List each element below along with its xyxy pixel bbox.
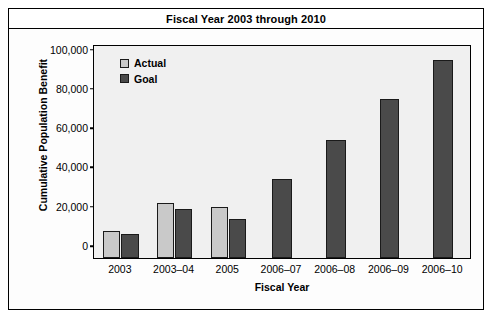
legend-item-goal: Goal	[120, 74, 166, 85]
y-axis-tick-label: 60,000	[26, 122, 88, 134]
chart-title: Fiscal Year 2003 through 2010	[166, 13, 326, 25]
x-axis-tick-label: 2005	[216, 263, 239, 275]
x-axis-tick-label: 2003–04	[153, 263, 194, 275]
bar-goal-2003	[121, 234, 138, 258]
chart-legend: Actual Goal	[120, 58, 166, 89]
bar-goal-2005	[229, 219, 246, 258]
legend-swatch-goal-icon	[120, 74, 129, 83]
legend-swatch-actual-icon	[120, 59, 129, 68]
bar-goal-2006–07	[272, 179, 292, 258]
y-axis-tick-label: 40,000	[26, 161, 88, 173]
chart-figure: Fiscal Year 2003 through 2010 Cumulative…	[8, 8, 484, 310]
y-axis-tick-label: 100,000	[26, 44, 88, 56]
legend-item-actual: Actual	[120, 58, 166, 69]
legend-label-goal: Goal	[134, 74, 157, 85]
legend-label-actual: Actual	[134, 58, 166, 69]
bar-actual-2005	[211, 207, 228, 258]
bar-goal-2006–10	[433, 60, 453, 258]
y-axis-tick-label: 20,000	[26, 201, 88, 213]
bar-goal-2006–08	[326, 140, 346, 258]
bar-goal-2003–04	[175, 209, 192, 258]
x-axis-tick-label: 2006–10	[422, 263, 463, 275]
chart-title-bar: Fiscal Year 2003 through 2010	[9, 9, 483, 29]
x-axis-tick-label: 2006–09	[368, 263, 409, 275]
bar-actual-2003–04	[157, 203, 174, 258]
bar-goal-2006–09	[380, 99, 400, 258]
bar-actual-2003	[103, 231, 120, 258]
chart-body: Cumulative Population Benefit 020,00040,…	[9, 29, 485, 310]
y-axis-tick-label: 0	[26, 240, 88, 252]
x-axis-tick-label: 2006–08	[314, 263, 355, 275]
plot-frame: 020,00040,00060,00080,000100,000 Actual …	[93, 45, 471, 259]
x-axis-tick-label: 2006–07	[261, 263, 302, 275]
x-axis-label: Fiscal Year	[93, 281, 471, 293]
y-axis-tick-label: 80,000	[26, 83, 88, 95]
x-axis-tick-label: 2003	[108, 263, 131, 275]
